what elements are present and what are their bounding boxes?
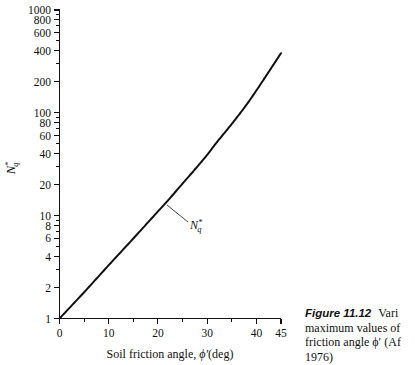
caption-line-2: friction angle ϕ′ (Af xyxy=(305,335,415,350)
y-tick-label: 6 xyxy=(45,232,51,244)
x-tick-label: 0 xyxy=(57,327,63,339)
x-tick-label: 45 xyxy=(275,327,287,339)
y-tick-label: 1 xyxy=(45,313,51,325)
nq-curve xyxy=(60,53,282,318)
x-axis-tick-labels: 01020304045 xyxy=(57,327,287,339)
y-axis-tick-labels: 1246810204060801002004006008001000 xyxy=(28,4,51,325)
y-tick-label: 40 xyxy=(40,148,52,160)
y-tick-label: 1000 xyxy=(28,4,51,16)
x-axis-ticks xyxy=(60,319,282,325)
y-tick-label: 2 xyxy=(45,282,51,294)
y-tick-label: 60 xyxy=(40,130,52,142)
axis-lines xyxy=(60,10,282,319)
caption-line-1: maximum values of xyxy=(305,321,415,336)
y-tick-label: 200 xyxy=(34,76,52,88)
y-tick-label: 10 xyxy=(40,210,52,222)
figure-caption: Figure 11.12Vari maximum values of frict… xyxy=(305,306,415,364)
x-axis-title: Soil friction angle, ϕ′(deg) xyxy=(107,347,234,361)
x-tick-label: 40 xyxy=(251,327,263,339)
y-axis-ticks xyxy=(54,10,60,319)
caption-text-0: Vari xyxy=(378,306,398,320)
y-tick-label: 400 xyxy=(34,45,52,57)
caption-figure-number: Figure 11.12 xyxy=(305,307,371,319)
y-tick-label: 100 xyxy=(34,107,52,119)
curve-label-leader-line xyxy=(167,205,188,222)
x-tick-label: 10 xyxy=(103,327,115,339)
y-tick-label: 20 xyxy=(40,179,52,191)
curve-label-nq: N*q xyxy=(189,217,203,234)
figure-container: 1246810204060801002004006008001000 01020… xyxy=(0,0,415,365)
y-axis-title: N*q xyxy=(3,161,20,175)
caption-line-0: Figure 11.12Vari xyxy=(305,306,415,321)
x-tick-label: 20 xyxy=(152,327,164,339)
y-tick-label: 600 xyxy=(34,27,52,39)
caption-line-3: 1976) xyxy=(305,350,415,365)
y-tick-label: 4 xyxy=(45,251,51,263)
x-tick-label: 30 xyxy=(201,327,213,339)
